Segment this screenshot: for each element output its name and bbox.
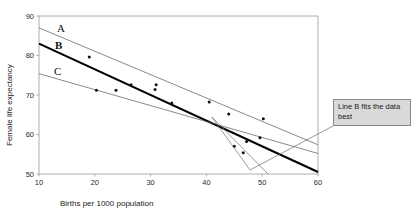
data-point	[227, 112, 230, 115]
plot-frame	[39, 16, 318, 174]
data-point	[88, 56, 91, 59]
chart-container: 102030405060 5060708090 ABC Births per 1…	[0, 0, 417, 215]
data-point	[130, 83, 133, 86]
x-tick-label: 40	[202, 178, 210, 187]
x-tick-label: 10	[35, 178, 43, 187]
trend-lines-group	[39, 28, 318, 172]
data-point	[262, 117, 265, 120]
x-tick-label: 60	[314, 178, 322, 187]
data-point	[245, 140, 248, 143]
data-point	[95, 89, 98, 92]
y-axis-title: Female life expectancy	[5, 64, 14, 146]
y-tick-label: 50	[26, 170, 34, 179]
line-label-a: A	[57, 22, 65, 34]
trend-line-b	[39, 44, 318, 172]
line-labels-group: ABC	[54, 22, 65, 77]
y-tick-label: 60	[26, 130, 34, 139]
x-tick-label: 20	[91, 178, 99, 187]
data-point	[242, 151, 245, 154]
y-tick-label: 90	[26, 12, 34, 21]
trend-line-c	[39, 74, 318, 154]
data-point	[258, 136, 261, 139]
callout-text: Line B fits the data best	[338, 102, 406, 121]
data-point	[155, 83, 158, 86]
line-label-b: B	[55, 39, 63, 51]
callout-box: Line B fits the data best	[333, 99, 411, 126]
data-point	[170, 101, 173, 104]
data-point	[115, 89, 118, 92]
trend-line-a	[39, 28, 318, 145]
line-label-c: C	[54, 65, 61, 77]
data-points-group	[88, 56, 265, 155]
y-axis-ticks: 5060708090	[26, 12, 39, 179]
x-axis-ticks: 102030405060	[35, 174, 322, 187]
data-point	[154, 88, 157, 91]
y-tick-label: 70	[26, 91, 34, 100]
y-tick-label: 80	[26, 51, 34, 60]
x-axis-title: Births per 1000 population	[60, 199, 153, 208]
data-point	[208, 101, 211, 104]
x-tick-label: 30	[146, 178, 154, 187]
x-tick-label: 50	[258, 178, 266, 187]
